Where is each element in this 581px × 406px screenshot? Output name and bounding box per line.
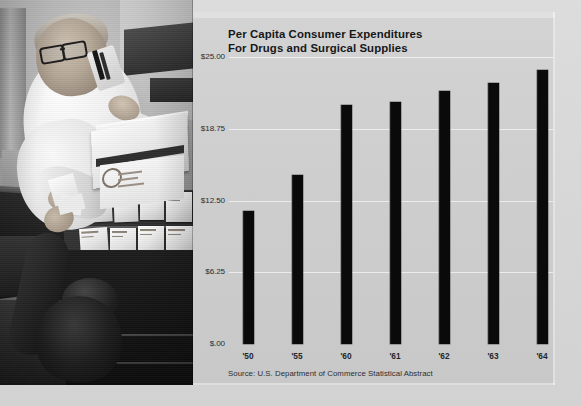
x-axis-tick-label: '60 <box>330 351 362 361</box>
photo-dark-shelf-2 <box>150 78 193 102</box>
pharmacy-photograph <box>0 0 193 385</box>
bar-highlight <box>488 83 490 344</box>
bar <box>390 102 401 344</box>
x-axis-tick-label: '63 <box>477 351 509 361</box>
photo-dark-shelf <box>124 22 193 75</box>
x-axis-tick-label: '61 <box>379 351 411 361</box>
y-gridline <box>229 57 553 58</box>
poster-page: Per Capita Consumer Expenditures For Dru… <box>0 0 581 406</box>
bar <box>292 175 303 344</box>
bar-highlight <box>243 211 245 344</box>
bar-highlight <box>439 91 441 344</box>
bar-highlight <box>390 102 392 344</box>
y-axis-tick-label: $6.25 <box>179 267 225 276</box>
bar <box>488 83 499 344</box>
plot-area: $25.00$18.75$12.50$6.25$.00'50'55'60'61'… <box>193 0 581 406</box>
bar-highlight <box>341 105 343 344</box>
bar <box>537 70 548 344</box>
bar <box>243 211 254 344</box>
x-axis-tick-label: '50 <box>232 351 264 361</box>
y-axis-tick-label: $25.00 <box>179 52 225 61</box>
photo-customer-hair <box>36 296 122 382</box>
x-axis-tick-label: '64 <box>526 351 558 361</box>
y-axis-tick-label: $18.75 <box>179 124 225 133</box>
y-axis-tick-label: $.00 <box>179 339 225 348</box>
photo-left-column <box>0 8 26 158</box>
bar <box>439 91 450 344</box>
y-axis-tick-label: $12.50 <box>179 196 225 205</box>
bar-highlight <box>537 70 539 344</box>
bar <box>341 105 352 344</box>
bar-highlight <box>292 175 294 344</box>
chart-source-note: Source: U.S. Department of Commerce Stat… <box>228 369 433 378</box>
x-axis-tick-label: '62 <box>428 351 460 361</box>
x-axis-tick-label: '55 <box>281 351 313 361</box>
photo-bottom-edge <box>0 384 193 385</box>
